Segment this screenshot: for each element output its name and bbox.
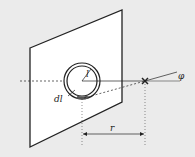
plane	[30, 10, 122, 147]
label-angle: φ	[178, 71, 185, 81]
arrowhead-right	[140, 132, 144, 136]
label-radius: l	[86, 69, 89, 79]
label-distance: r	[110, 123, 115, 133]
label-element: dl	[54, 94, 63, 104]
angle-line	[145, 72, 177, 81]
arrowhead-left	[83, 132, 87, 136]
current-loop-diagram: l dl r φ	[0, 0, 195, 157]
current-element	[77, 97, 88, 98]
